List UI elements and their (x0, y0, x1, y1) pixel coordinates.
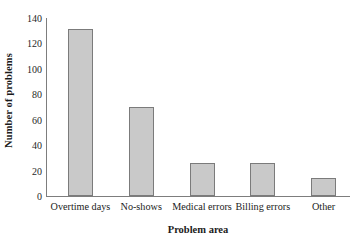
bar (68, 29, 93, 196)
y-tick-label: 40 (32, 140, 42, 151)
x-axis-title: Problem area (46, 224, 350, 235)
y-tick-label: 20 (32, 165, 42, 176)
x-tick-label: Other (312, 201, 335, 212)
y-axis-line (46, 18, 47, 197)
bar (311, 178, 336, 196)
y-tick-label: 80 (32, 89, 42, 100)
bar-chart: Number of problems 020406080100120140 Ov… (0, 0, 357, 242)
y-tick-label: 60 (32, 114, 42, 125)
bar (129, 107, 154, 196)
x-tick-label: No-shows (121, 201, 162, 212)
bar (250, 163, 275, 196)
x-tick-label: Overtime days (51, 201, 111, 212)
y-axis-title: Number of problems (0, 0, 16, 200)
y-axis-title-text: Number of problems (3, 53, 14, 148)
x-tick-label: Medical errors (172, 201, 232, 212)
y-tick-label: 100 (27, 63, 42, 74)
y-tick-label: 120 (27, 38, 42, 49)
y-tick-label: 0 (37, 191, 42, 202)
bar (190, 163, 215, 196)
plot-area: 020406080100120140 Overtime daysNo-shows… (46, 18, 350, 197)
x-axis-line (46, 196, 350, 197)
x-tick-label: Billing errors (235, 201, 290, 212)
y-tick-label: 140 (27, 13, 42, 24)
